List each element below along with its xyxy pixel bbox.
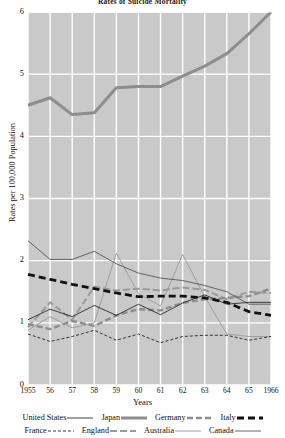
legend-item-england[interactable]: England <box>82 426 136 435</box>
legend-item-australia[interactable]: Australia <box>144 426 201 435</box>
legend-item-united-states[interactable]: United States <box>22 413 93 422</box>
legend-label: Canada <box>209 426 234 435</box>
legend-label: Germany <box>155 413 185 422</box>
legend-label: Australia <box>144 426 174 435</box>
legend-row-2: FranceEnglandAustraliaCanada <box>0 424 285 437</box>
legend-line-swatch <box>175 427 201 435</box>
legend-label: Italy <box>221 413 236 422</box>
legend-row-1: United StatesJapanGermanyItaly <box>0 411 285 424</box>
legend-label: Japan <box>101 413 120 422</box>
legend-line-swatch <box>237 414 263 422</box>
legend-label: United States <box>22 413 66 422</box>
legend-line-swatch <box>67 414 93 422</box>
plot-area <box>0 0 285 438</box>
legend-line-swatch <box>48 427 74 435</box>
legend-item-canada[interactable]: Canada <box>209 426 261 435</box>
chart-root: Rates of Suicide Mortality Rates per 100… <box>0 0 285 438</box>
legend-line-swatch <box>235 427 261 435</box>
legend-label: England <box>82 426 109 435</box>
legend-item-italy[interactable]: Italy <box>221 413 263 422</box>
legend-line-swatch <box>187 414 213 422</box>
legend-line-swatch <box>110 427 136 435</box>
legend-item-france[interactable]: France <box>24 426 73 435</box>
legend-item-japan[interactable]: Japan <box>101 413 147 422</box>
chart-legend: United StatesJapanGermanyItaly FranceEng… <box>0 411 285 437</box>
legend-item-germany[interactable]: Germany <box>155 413 212 422</box>
legend-line-swatch <box>121 414 147 422</box>
legend-label: France <box>24 426 46 435</box>
